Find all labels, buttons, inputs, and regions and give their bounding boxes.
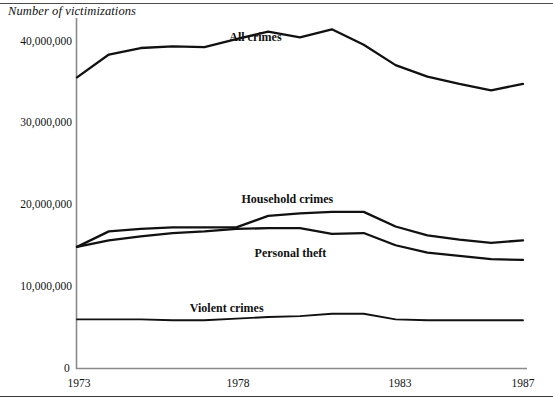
series-label-personal-theft: Personal theft [255,246,327,261]
bottom-rule [0,396,553,397]
series-line-all-crimes [77,29,523,90]
x-tick-1987: 1987 [512,377,535,389]
y-tick-10m: 10,000,000 [0,280,72,292]
y-tick-20m: 20,000,000 [0,198,72,210]
y-tick-40m: 40,000,000 [0,35,72,47]
series-label-violent-crimes: Violent crimes [190,301,264,316]
y-tick-30m: 30,000,000 [0,116,72,128]
x-tick-1978: 1978 [227,377,250,389]
x-tick-1983: 1983 [389,377,412,389]
series-line-violent-crimes [77,314,523,321]
series-label-all-crimes: All crimes [229,30,281,45]
figure-panel: Number of victimizations 40,000,000 30,0… [0,0,553,406]
x-tick-1973: 1973 [68,377,91,389]
data-series-layer [77,29,523,320]
y-tick-zero: 0 [64,362,70,374]
series-line-household-crimes [77,212,523,247]
series-label-household-crimes: Household crimes [241,192,333,207]
